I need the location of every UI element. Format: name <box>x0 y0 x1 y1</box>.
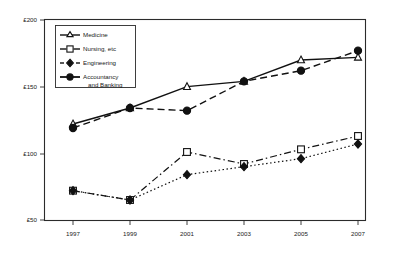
x-tick-label-2007: 2007 <box>351 230 365 237</box>
diamond-solid-marker <box>354 140 361 148</box>
series-line <box>73 136 358 200</box>
diamond-solid-marker <box>183 171 190 179</box>
x-tick-label-2003: 2003 <box>237 230 251 237</box>
legend-label-medicine: Medicine <box>83 31 108 38</box>
circle-solid-icon <box>67 74 73 80</box>
series-nursing-etc <box>70 133 362 204</box>
chart-legend: Medicine Nursing, etc Engineering Acco <box>56 26 136 89</box>
x-tick-label-1997: 1997 <box>66 230 80 237</box>
diamond-solid-marker <box>297 155 304 163</box>
circle-solid-marker <box>126 104 133 111</box>
legend-label-engineering: Engineering <box>83 59 117 66</box>
x-tick-label-2005: 2005 <box>294 230 308 237</box>
series-engineering <box>69 140 361 204</box>
y-tick-label-100: £100 <box>23 150 37 157</box>
circle-solid-marker <box>183 107 190 114</box>
y-axis-ticks <box>40 20 45 220</box>
circle-solid-marker <box>69 124 76 131</box>
x-axis-ticks <box>73 221 358 226</box>
series-line <box>73 144 358 200</box>
line-chart: £200 £150 £100 £50 1997 1999 2001 2003 2… <box>0 0 407 254</box>
y-tick-label-50: £50 <box>27 216 38 223</box>
x-tick-label-2001: 2001 <box>180 230 194 237</box>
square-open-marker <box>355 133 362 140</box>
square-open-marker <box>298 146 305 153</box>
legend-label-accountancy-line2: and Banking <box>88 81 123 88</box>
legend-label-nursing: Nursing, etc <box>83 45 116 52</box>
square-open-icon <box>67 46 73 52</box>
legend-label-accountancy: Accountancy <box>83 73 119 80</box>
legend-entry-nursing[interactable]: Nursing, etc <box>60 45 116 52</box>
circle-solid-marker <box>240 78 247 85</box>
legend-entry-engineering[interactable]: Engineering <box>60 59 117 67</box>
y-tick-label-200: £200 <box>23 16 37 23</box>
y-tick-label-150: £150 <box>23 83 37 90</box>
square-open-marker <box>184 149 191 156</box>
chart-canvas: £200 £150 £100 £50 1997 1999 2001 2003 2… <box>0 0 407 254</box>
circle-solid-marker <box>297 67 304 74</box>
x-tick-label-1999: 1999 <box>123 230 137 237</box>
circle-solid-marker <box>354 47 361 54</box>
